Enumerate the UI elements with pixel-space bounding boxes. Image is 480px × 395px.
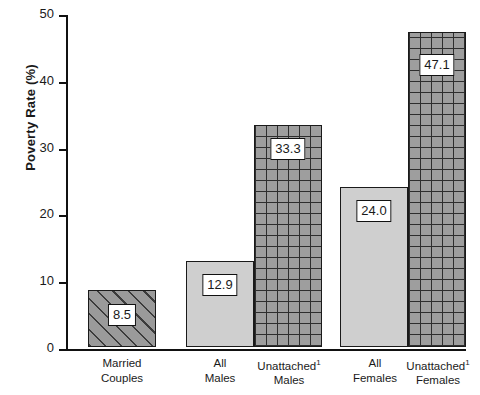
y-tick-label: 10 <box>40 273 54 288</box>
category-label-all-males: All Males <box>205 356 236 385</box>
y-tick-label: 20 <box>40 206 54 221</box>
category-line-1: Unattached <box>406 360 465 372</box>
value-label-all-females: 24.0 <box>356 200 391 222</box>
x-axis-line <box>66 349 466 351</box>
category-line-1: Married <box>103 357 142 369</box>
category-line-1: All <box>214 357 227 369</box>
category-line-2: Males <box>205 372 236 384</box>
y-tick-label: 50 <box>40 6 54 21</box>
y-tick-mark <box>59 149 66 151</box>
category-line-2: Females <box>353 372 397 384</box>
category-line-1: All <box>369 357 382 369</box>
category-line-2: Females <box>416 374 460 386</box>
category-label-unattached-males: Unattached1 Males <box>257 356 320 388</box>
y-axis-line <box>66 15 68 350</box>
y-tick-mark <box>59 215 66 217</box>
y-tick-label: 40 <box>40 73 54 88</box>
category-label-married-couples: Married Couples <box>101 356 143 385</box>
value-label-all-males: 12.9 <box>202 274 237 296</box>
footnote-marker: 1 <box>316 358 320 367</box>
value-label-married-couples: 8.5 <box>108 304 136 326</box>
poverty-rate-bar-chart: Poverty Rate (%) 0 10 20 30 40 50 <box>0 0 480 395</box>
category-line-1: Unattached <box>257 360 316 372</box>
value-label-unattached-males: 33.3 <box>270 138 305 160</box>
y-tick-mark <box>59 349 66 351</box>
y-tick-mark <box>59 82 66 84</box>
category-line-2: Males <box>274 374 305 386</box>
value-label-unattached-females: 47.1 <box>419 54 454 76</box>
y-tick-label: 30 <box>40 140 54 155</box>
bar-unattached-females <box>408 32 466 347</box>
plot-area: 0 10 20 30 40 50 8.5 12.9 3 <box>66 15 466 349</box>
category-label-all-females: All Females <box>353 356 397 385</box>
footnote-marker: 1 <box>465 358 469 367</box>
y-tick-mark <box>59 15 66 17</box>
y-tick-label: 0 <box>47 340 54 355</box>
category-line-2: Couples <box>101 372 143 384</box>
y-axis-title: Poverty Rate (%) <box>23 28 38 208</box>
category-label-unattached-females: Unattached1 Females <box>406 356 469 388</box>
y-tick-mark <box>59 282 66 284</box>
